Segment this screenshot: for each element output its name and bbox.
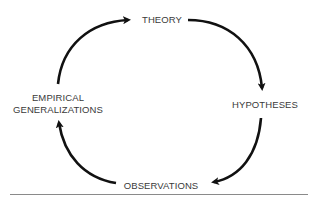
node-observations: OBSERVATIONS [118,180,204,192]
bottom-divider-line [10,194,308,195]
arrow-empirical-to-theory [58,20,128,84]
arrow-theory-to-hypotheses [188,20,262,88]
node-empirical-label-line2: GENERALIZATIONS [5,104,111,116]
wheel-of-science-diagram: THEORY EMPIRICAL GENERALIZATIONS HYPOTHE… [0,0,309,200]
arrow-observations-to-empirical [59,123,116,183]
node-theory-label: THEORY [142,14,182,25]
node-empirical-label-line1: EMPIRICAL [5,92,111,104]
node-hypotheses: HYPOTHESES [232,99,298,111]
node-empirical-generalizations: EMPIRICAL GENERALIZATIONS [5,92,111,116]
node-observations-label: OBSERVATIONS [124,180,199,191]
node-hypotheses-label: HYPOTHESES [232,99,298,110]
arrow-hypotheses-to-observations [214,118,261,182]
node-theory: THEORY [138,14,186,26]
